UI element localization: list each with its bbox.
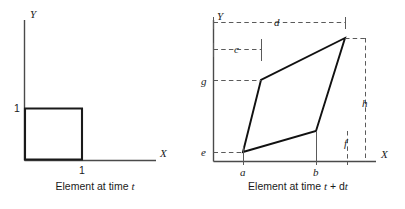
caption-right-panel: Element at time t + dt (198, 180, 398, 192)
dimension-label-a: a (240, 166, 246, 178)
dimension-label-d: d (274, 16, 280, 28)
panel-left: Y X 1 1 (14, 8, 168, 176)
caption-left-text: Element at time (56, 180, 132, 192)
dimension-label-g: g (201, 75, 207, 87)
left-x-tick-label: 1 (79, 164, 85, 176)
figure-container: Y X 1 1 Y X (0, 0, 405, 209)
figure-canvas: Y X 1 1 Y X (0, 0, 405, 209)
caption-left-symbol: t (131, 180, 134, 192)
left-y-axis-label: Y (30, 8, 38, 20)
right-deformed-element (243, 38, 345, 152)
dimension-label-b: b (313, 166, 319, 178)
caption-right-operator: + d (327, 180, 345, 192)
panel-right: Y X (201, 10, 389, 178)
right-y-axis-label: Y (217, 10, 225, 22)
left-y-tick-label: 1 (14, 102, 20, 114)
left-x-axis-label: X (159, 147, 168, 159)
left-unit-square (25, 109, 82, 160)
dimension-label-f: f (344, 137, 349, 149)
caption-right-symbol2: t (345, 180, 348, 192)
right-x-axis-label: X (380, 148, 389, 160)
dimension-label-h: h (362, 97, 368, 109)
dimension-label-e: e (201, 146, 206, 158)
caption-right-text: Element at time (248, 180, 324, 192)
dimension-label-c: c (234, 43, 239, 55)
caption-left-panel: Element at time t (0, 180, 190, 192)
